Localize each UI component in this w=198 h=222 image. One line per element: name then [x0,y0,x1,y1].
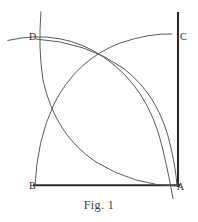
vertex-label-C: C [180,32,187,42]
figure-container: D C B A Fig. 1 [0,0,198,222]
vertex-label-D: D [29,32,36,42]
arc-centered-at-B [40,12,178,187]
vertex-label-B: B [29,181,36,191]
arc-centered-at-A [8,37,174,199]
vertex-label-A: A [177,182,184,192]
figure-caption: Fig. 1 [0,198,198,213]
arc-centered-at-D [36,39,178,186]
